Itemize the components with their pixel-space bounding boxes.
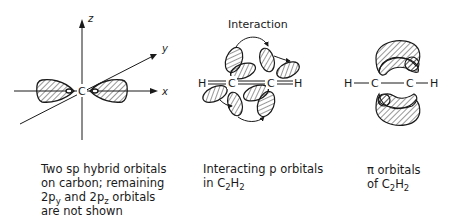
z-axis-label: z [87,13,94,24]
z-arrow-icon [79,19,85,28]
interaction-panel: Interaction H C C H [197,18,302,122]
carbon-left-label: C [371,77,379,90]
pi-orbitals-panel: H C C H [344,41,438,126]
interaction-arrow [274,56,290,61]
caption-line: π orbitals [367,163,421,177]
interaction-title: Interaction [228,18,288,31]
pi-cloud-lower-end [378,94,390,106]
carbon-label: C [78,85,86,98]
small-lobe-left [66,89,72,93]
caption-line: on carbon; remaining [41,176,166,190]
carbon-left-label: C [228,77,236,90]
sp-hybrid-panel: z y x C [14,13,169,140]
caption-line: are not shown [41,204,166,218]
sp-hybrid-caption: Two sp hybrid orbitals on carbon; remain… [41,162,166,218]
hydrogen-right-label: H [294,77,302,90]
caption-line: in C2H2 [203,176,323,190]
carbon-right-label: C [267,77,275,90]
caption-line: 2py and 2pz orbitals [41,190,166,204]
p-lobe [225,91,245,118]
carbon-right-label: C [406,77,414,90]
y-arrow-icon [150,54,157,60]
interaction-arrow [236,37,268,47]
x-arrow-icon [150,88,158,94]
caption-line: Two sp hybrid orbitals [41,162,166,176]
y-axis-label: y [161,43,169,54]
small-lobe-right [92,89,98,93]
caption-line: of C2H2 [367,177,421,191]
p-lobe [257,47,277,74]
hydrogen-right-label: H [430,77,438,90]
pi-orbitals-caption: π orbitals of C2H2 [367,163,421,191]
interaction-arrow [238,117,264,122]
hydrogen-left-label: H [198,77,206,90]
caption-line: Interacting p orbitals [203,162,323,176]
pi-cloud-upper-end [405,57,419,71]
hydrogen-left-label: H [344,77,352,90]
x-axis-label: x [161,86,168,97]
interaction-caption: Interacting p orbitals in C2H2 [203,162,323,190]
